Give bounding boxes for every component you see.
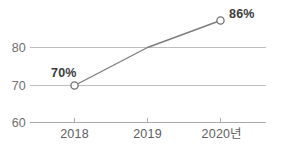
data-label-2020: 86% xyxy=(229,7,255,21)
x-tick-label-2020: 2020년 xyxy=(202,127,243,141)
series-group xyxy=(71,17,224,89)
chart-canvas: 80 70 60 2018 2019 2020년 70% 86% xyxy=(0,0,282,151)
data-label-2018: 70% xyxy=(51,66,77,80)
line-chart: 80 70 60 2018 2019 2020년 70% 86% xyxy=(0,0,282,151)
data-point-labels: 70% 86% xyxy=(51,7,255,80)
x-axis-ticks xyxy=(75,118,221,123)
data-point-2018[interactable] xyxy=(71,82,78,89)
x-axis-labels: 2018 2019 2020년 xyxy=(60,127,242,141)
gridlines xyxy=(30,48,266,123)
y-tick-label-60: 60 xyxy=(12,116,26,130)
series-line-path xyxy=(75,21,221,86)
data-point-2020[interactable] xyxy=(217,17,224,24)
y-tick-label-80: 80 xyxy=(12,41,26,55)
y-tick-label-70: 70 xyxy=(12,79,26,93)
y-axis-labels: 80 70 60 xyxy=(12,41,26,130)
x-tick-label-2019: 2019 xyxy=(133,127,162,141)
x-tick-label-2018: 2018 xyxy=(60,127,89,141)
